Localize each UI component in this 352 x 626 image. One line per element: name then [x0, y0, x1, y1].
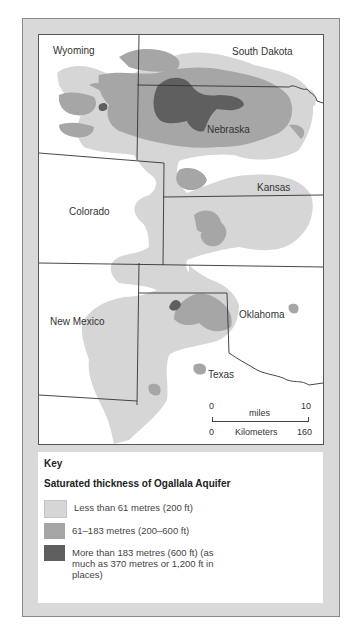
key-title: Key: [44, 458, 62, 469]
state-label-south-dakota: South Dakota: [232, 46, 293, 57]
key-item-label: More than 183 metres (600 ft) (as much a…: [72, 545, 232, 580]
state-label-oklahoma: Oklahoma: [239, 309, 285, 320]
scale-km-end: 160: [297, 427, 312, 437]
map-key: Key Saturated thickness of Ogallala Aqui…: [38, 452, 323, 603]
map-graphic: [39, 35, 323, 444]
state-label-colorado: Colorado: [69, 206, 110, 217]
state-label-nebraska: Nebraska: [207, 124, 250, 135]
key-item-medium: 61–183 metres (200–600 ft): [44, 523, 232, 539]
swatch-dark: [44, 545, 65, 561]
state-label-new-mexico: New Mexico: [50, 316, 104, 327]
state-label-texas: Texas: [208, 369, 234, 380]
scale-km-start: 0: [209, 427, 214, 437]
key-item-label: Less than 61 metres (200 ft): [74, 500, 234, 513]
aquifer-map: Wyoming South Dakota Nebraska Kansas Col…: [38, 34, 324, 445]
swatch-medium: [44, 523, 65, 539]
scale-miles-end: 10: [301, 401, 311, 411]
key-item-dark: More than 183 metres (600 ft) (as much a…: [44, 545, 232, 580]
scale-bar-line: [212, 417, 309, 422]
key-item-light: Less than 61 metres (200 ft): [44, 500, 234, 518]
swatch-light: [44, 500, 67, 518]
scale-miles-start: 0: [209, 401, 214, 411]
state-label-wyoming: Wyoming: [53, 45, 95, 56]
key-subtitle: Saturated thickness of Ogallala Aquifer: [44, 478, 230, 489]
key-item-label: 61–183 metres (200–600 ft): [72, 523, 232, 536]
scale-km-label: Kilometers: [235, 427, 278, 437]
state-label-kansas: Kansas: [257, 182, 290, 193]
